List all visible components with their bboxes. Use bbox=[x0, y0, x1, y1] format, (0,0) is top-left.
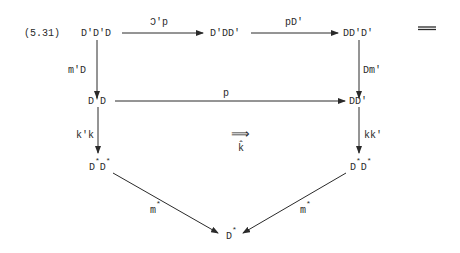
label-2cell: k̂ bbox=[238, 144, 244, 154]
label-mid-right-down: kk' bbox=[364, 131, 382, 141]
node-mid-left: D'D bbox=[88, 97, 106, 107]
label-mid-left-down: k'k bbox=[76, 131, 94, 141]
node-bottom-left-d2: D bbox=[100, 162, 106, 173]
star-superscript: * bbox=[356, 156, 361, 165]
node-top-left: D'D'D bbox=[81, 29, 111, 39]
node-bottom-left: D*D* bbox=[89, 163, 111, 173]
label-top-right-arrow: pD' bbox=[285, 18, 303, 28]
star-superscript: * bbox=[106, 156, 111, 165]
label-top-left-arrow: Ɔ'p bbox=[150, 18, 168, 28]
label-top-right-down: Dm' bbox=[363, 66, 381, 76]
node-bottom: D* bbox=[226, 232, 237, 242]
label-right-diagonal: m* bbox=[300, 206, 311, 216]
star-superscript: * bbox=[306, 199, 311, 208]
node-bottom-right: D*D* bbox=[350, 163, 372, 173]
star-superscript: * bbox=[232, 225, 237, 234]
label-top-left-down: m'D bbox=[68, 66, 86, 76]
node-top-mid: D'DD' bbox=[210, 29, 240, 39]
label-left-diagonal: m* bbox=[150, 206, 161, 216]
node-bottom-right-d2: D bbox=[361, 162, 367, 173]
node-mid-right: DD' bbox=[349, 97, 367, 107]
arrow-left-diagonal bbox=[113, 173, 218, 233]
arrow-right-diagonal bbox=[243, 173, 346, 233]
node-top-right: DD'D' bbox=[343, 29, 373, 39]
label-mid-horizontal: p bbox=[223, 89, 229, 99]
star-superscript: * bbox=[156, 199, 161, 208]
star-superscript: * bbox=[95, 156, 100, 165]
star-superscript: * bbox=[367, 156, 372, 165]
equation-number: (5.31) bbox=[24, 29, 60, 39]
double-arrow-2cell-icon: ⟹ bbox=[231, 130, 250, 140]
